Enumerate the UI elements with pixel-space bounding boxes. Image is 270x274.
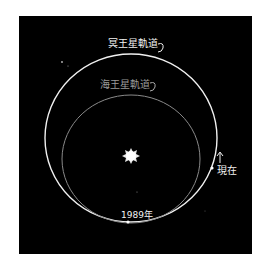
inner-orbit-label: 海王星軌道 <box>100 80 150 90</box>
arrow-up-icon <box>217 152 223 163</box>
sun-icon <box>122 148 140 164</box>
star-icon <box>205 211 206 212</box>
star-icon <box>67 65 68 66</box>
now-label: 現在 <box>217 166 237 176</box>
outer-orbit-label: 冥王星軌道 <box>108 39 158 49</box>
year-label: 1989年 <box>121 210 153 220</box>
pluto-1989-dot <box>126 220 129 223</box>
curl-arrow-icon <box>158 44 163 53</box>
curl-arrow-icon <box>150 83 155 92</box>
star-icon <box>61 61 63 63</box>
star-icon <box>136 191 137 192</box>
pluto-now-dot <box>210 166 213 169</box>
